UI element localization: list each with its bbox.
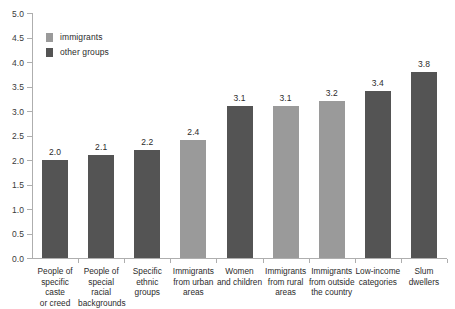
category-label-line: from rural xyxy=(263,277,309,288)
x-axis-tick xyxy=(401,259,402,263)
bar-value-label: 2.4 xyxy=(187,127,199,137)
category-label: Specificethnicgroups xyxy=(124,266,170,298)
y-axis-tick-label: 1.0 xyxy=(12,205,24,215)
category-label-line: racial xyxy=(78,287,124,298)
category-label-line: Immigrants xyxy=(170,266,216,277)
category-label-line: Low-income xyxy=(355,266,401,277)
category-label-line: special xyxy=(78,277,124,288)
legend-label: other groups xyxy=(60,47,109,57)
bar-value-label: 2.0 xyxy=(49,147,61,157)
category-label-line: Immigrants xyxy=(309,266,355,277)
category-label-line: Women xyxy=(216,266,262,277)
category-label-line: or creed xyxy=(32,298,78,309)
category-label-line: Slum xyxy=(401,266,447,277)
category-label: Immigrantsfrom urbanareas xyxy=(170,266,216,298)
x-axis-tick xyxy=(355,259,356,263)
category-label-line: and children xyxy=(216,277,262,288)
category-label-line: from urban xyxy=(170,277,216,288)
category-label-line: Immigrants xyxy=(263,266,309,277)
bar-value-label: 3.4 xyxy=(372,78,384,88)
category-label-line: backgrounds xyxy=(78,298,124,309)
y-axis-tick-label: 4.0 xyxy=(12,58,24,68)
x-axis-tick xyxy=(216,259,217,263)
y-axis-tick-label: 3.0 xyxy=(12,107,24,117)
category-label-line: specific caste xyxy=(32,277,78,298)
legend-item-other-groups: other groups xyxy=(46,46,109,58)
bar-chart: 0.00.51.01.52.02.53.03.54.04.55.0 2.02.1… xyxy=(0,0,455,309)
category-label: Slumdwellers xyxy=(401,266,447,287)
category-label-line: ethnic xyxy=(124,277,170,288)
category-label: Low-incomecategories xyxy=(355,266,401,287)
bar: 2.0 xyxy=(42,160,68,258)
bar: 3.4 xyxy=(365,91,391,258)
category-label-line: the country xyxy=(309,287,355,298)
y-axis-tick-label: 0.0 xyxy=(12,254,24,264)
category-label: Immigrantsfrom outsidethe country xyxy=(309,266,355,298)
x-axis-tick xyxy=(78,259,79,263)
y-axis-tick-label: 3.5 xyxy=(12,82,24,92)
bar: 2.1 xyxy=(88,155,114,258)
category-label-line: areas xyxy=(263,287,309,298)
y-axis-tick-label: 2.5 xyxy=(12,131,24,141)
category-label-line: from outside xyxy=(309,277,355,288)
x-axis-line xyxy=(32,258,447,259)
bar-value-label: 2.2 xyxy=(141,137,153,147)
y-axis-tick: 0.0 xyxy=(27,258,32,259)
category-label-line: dwellers xyxy=(401,277,447,288)
category-label-line: categories xyxy=(355,277,401,288)
y-axis-tick-label: 0.5 xyxy=(12,229,24,239)
category-label-line: People of xyxy=(32,266,78,277)
bar: 3.1 xyxy=(273,106,299,258)
category-label: People ofspecialracialbackgrounds xyxy=(78,266,124,308)
y-axis-tick-label: 2.0 xyxy=(12,156,24,166)
bar-value-label: 3.1 xyxy=(280,93,292,103)
bar-value-label: 3.1 xyxy=(233,93,245,103)
bar: 2.4 xyxy=(180,140,206,258)
y-axis-tick-label: 4.5 xyxy=(12,33,24,43)
category-label: Immigrantsfrom ruralareas xyxy=(263,266,309,298)
x-axis-tick xyxy=(447,259,448,263)
legend-swatch-icon xyxy=(46,33,53,42)
x-axis-tick xyxy=(309,259,310,263)
bar-value-label: 3.8 xyxy=(418,59,430,69)
category-label-line: areas xyxy=(170,287,216,298)
category-label-line: Specific xyxy=(124,266,170,277)
bar: 2.2 xyxy=(134,150,160,258)
category-label-line: People of xyxy=(78,266,124,277)
category-label: People ofspecific casteor creed xyxy=(32,266,78,308)
legend-swatch-icon xyxy=(46,48,53,57)
category-label: Womenand children xyxy=(216,266,262,287)
bar: 3.8 xyxy=(411,72,437,258)
bar-value-label: 2.1 xyxy=(95,142,107,152)
x-axis-tick xyxy=(263,259,264,263)
legend-item-immigrants: immigrants xyxy=(46,31,109,43)
y-axis-tick-label: 5.0 xyxy=(12,9,24,19)
category-label-line: groups xyxy=(124,287,170,298)
chart-legend: immigrants other groups xyxy=(46,31,109,61)
y-axis-tick-label: 1.5 xyxy=(12,180,24,190)
x-axis-tick xyxy=(124,259,125,263)
x-axis-tick xyxy=(170,259,171,263)
bar: 3.2 xyxy=(319,101,345,258)
bar-value-label: 3.2 xyxy=(326,88,338,98)
legend-label: immigrants xyxy=(60,32,103,42)
bar: 3.1 xyxy=(227,106,253,258)
